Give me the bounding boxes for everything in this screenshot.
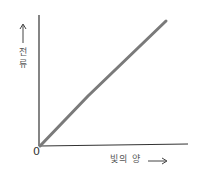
- data-line: [40, 21, 166, 146]
- x-arrow-icon: [148, 158, 167, 164]
- x-axis: [39, 144, 188, 146]
- origin-label: 0: [33, 146, 40, 157]
- x-axis-label: 빛의 양: [110, 155, 141, 164]
- y-axis-label-char: 류: [17, 58, 29, 70]
- chart-canvas: [0, 0, 200, 181]
- y-axis-label: 전 류: [17, 46, 29, 70]
- y-axis-label-char: 전: [17, 46, 29, 58]
- y-arrow-icon: [20, 24, 26, 43]
